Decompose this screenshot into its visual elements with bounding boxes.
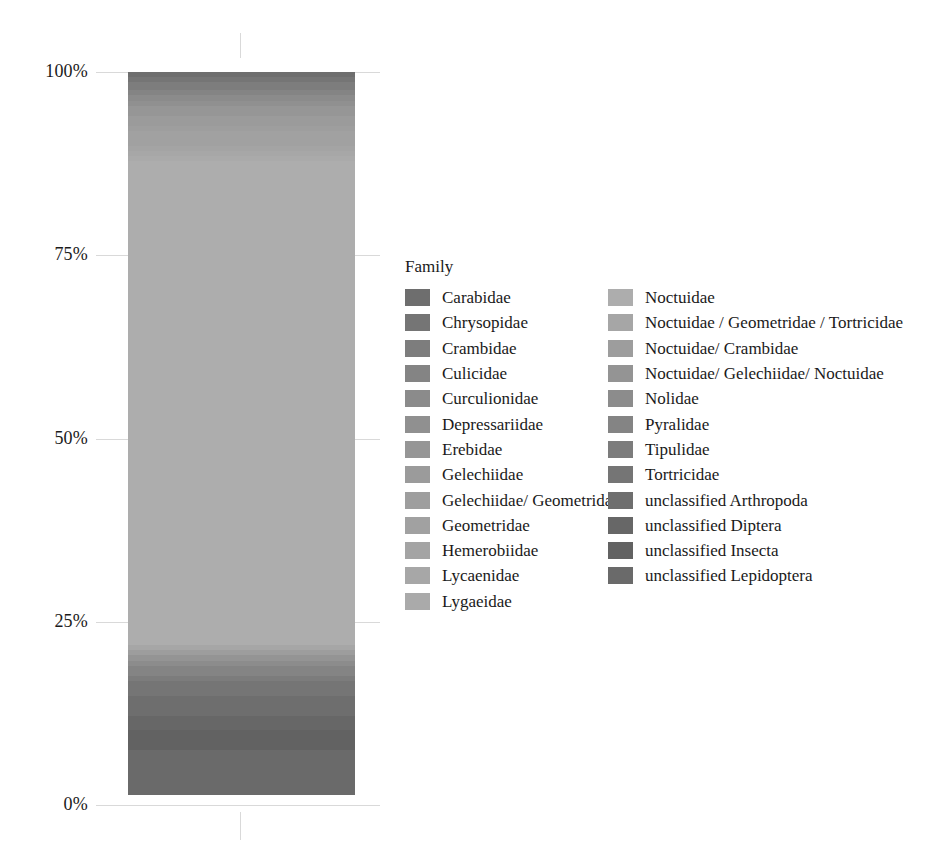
legend-item[interactable]: unclassified Arthropoda — [608, 487, 928, 512]
legend-column-2: NoctuidaeNoctuidae / Geometridae / Tortr… — [608, 285, 928, 589]
bar-segment — [128, 131, 355, 146]
bar-segment — [128, 750, 355, 795]
legend-swatch-icon — [608, 340, 633, 357]
legend-item[interactable]: unclassified Lepidoptera — [608, 563, 928, 588]
legend-item[interactable]: Depressariidae — [405, 411, 608, 436]
legend-swatch-icon — [405, 466, 430, 483]
x-axis-tick-top — [240, 33, 241, 58]
y-axis-tick-75: 75% — [20, 244, 88, 265]
legend-item[interactable]: Culicidae — [405, 361, 608, 386]
legend-item[interactable]: Tortricidae — [608, 462, 928, 487]
bar-segment — [128, 161, 355, 645]
legend-item[interactable]: Noctuidae / Geometridae / Tortricidae — [608, 310, 928, 335]
legend-item-label: Gelechiidae — [442, 466, 523, 483]
legend-item-label: Crambidae — [442, 340, 517, 357]
bar-segment — [128, 716, 355, 731]
legend-swatch-icon — [405, 314, 430, 331]
legend: Family CarabidaeChrysopidaeCrambidaeCuli… — [405, 258, 928, 614]
bar-segment — [128, 666, 355, 677]
legend-item[interactable]: Lycaenidae — [405, 563, 608, 588]
legend-swatch-icon — [405, 492, 430, 509]
legend-swatch-icon — [405, 441, 430, 458]
legend-item-label: Tortricidae — [645, 466, 719, 483]
bar-segment — [128, 730, 355, 750]
legend-item-label: Geometridae — [442, 517, 530, 534]
legend-item[interactable]: Pyralidae — [608, 411, 928, 436]
legend-swatch-icon — [405, 567, 430, 584]
legend-item[interactable]: Tipulidae — [608, 437, 928, 462]
legend-item-label: Curculionidae — [442, 390, 538, 407]
legend-swatch-icon — [405, 289, 430, 306]
legend-item-label: unclassified Arthropoda — [645, 492, 808, 509]
legend-swatch-icon — [405, 340, 430, 357]
legend-swatch-icon — [405, 542, 430, 559]
x-axis-tick-bottom — [240, 812, 241, 840]
y-axis-tick-25: 25% — [20, 611, 88, 632]
bar-segment — [128, 696, 355, 716]
legend-item[interactable]: Curculionidae — [405, 386, 608, 411]
legend-item[interactable]: Gelechiidae/ Geometridae — [405, 487, 608, 512]
legend-swatch-icon — [608, 517, 633, 534]
legend-swatch-icon — [608, 466, 633, 483]
legend-item-label: Noctuidae/ Gelechiidae/ Noctuidae — [645, 365, 884, 382]
legend-item[interactable]: Noctuidae/ Gelechiidae/ Noctuidae — [608, 361, 928, 386]
legend-swatch-icon — [405, 390, 430, 407]
legend-item-label: Tipulidae — [645, 441, 710, 458]
legend-item[interactable]: unclassified Diptera — [608, 513, 928, 538]
legend-swatch-icon — [608, 365, 633, 382]
legend-item[interactable]: unclassified Insecta — [608, 538, 928, 563]
legend-swatch-icon — [608, 314, 633, 331]
legend-item[interactable]: Carabidae — [405, 285, 608, 310]
y-axis-tick-100: 100% — [20, 61, 88, 82]
legend-item-label: Lycaenidae — [442, 567, 519, 584]
legend-item-label: Gelechiidae/ Geometridae — [442, 492, 620, 509]
legend-swatch-icon — [608, 492, 633, 509]
legend-item[interactable]: Chrysopidae — [405, 310, 608, 335]
gridline — [96, 805, 380, 806]
y-axis-tick-0: 0% — [20, 794, 88, 815]
legend-swatch-icon — [608, 289, 633, 306]
legend-item-label: Noctuidae/ Crambidae — [645, 340, 798, 357]
legend-item-label: Erebidae — [442, 441, 502, 458]
legend-item-label: Culicidae — [442, 365, 507, 382]
legend-item[interactable]: Noctuidae/ Crambidae — [608, 336, 928, 361]
legend-item[interactable]: Geometridae — [405, 513, 608, 538]
legend-swatch-icon — [405, 593, 430, 610]
stacked-bar — [128, 72, 355, 805]
legend-swatch-icon — [608, 441, 633, 458]
legend-item[interactable]: Crambidae — [405, 336, 608, 361]
legend-item-label: Nolidae — [645, 390, 699, 407]
legend-swatch-icon — [405, 416, 430, 433]
legend-item[interactable]: Nolidae — [608, 386, 928, 411]
legend-item-label: Hemerobiidae — [442, 542, 538, 559]
legend-swatch-icon — [405, 517, 430, 534]
legend-item[interactable]: Hemerobiidae — [405, 538, 608, 563]
legend-item[interactable]: Gelechiidae — [405, 462, 608, 487]
legend-item-label: Noctuidae — [645, 289, 715, 306]
legend-item-label: Depressariidae — [442, 416, 543, 433]
legend-swatch-icon — [405, 365, 430, 382]
legend-swatch-icon — [608, 390, 633, 407]
bar-segment — [128, 106, 355, 117]
legend-item-label: Pyralidae — [645, 416, 709, 433]
legend-item-label: unclassified Diptera — [645, 517, 781, 534]
legend-item-label: Noctuidae / Geometridae / Tortricidae — [645, 314, 903, 331]
legend-item[interactable]: Noctuidae — [608, 285, 928, 310]
legend-swatch-icon — [608, 567, 633, 584]
y-axis-tick-50: 50% — [20, 428, 88, 449]
legend-item[interactable]: Lygaeidae — [405, 589, 608, 614]
legend-column-1: CarabidaeChrysopidaeCrambidaeCulicidaeCu… — [405, 285, 608, 614]
legend-swatch-icon — [608, 416, 633, 433]
legend-item-label: unclassified Insecta — [645, 542, 779, 559]
stacked-bar-chart: 100%75%50%25%0% Family CarabidaeChrysopi… — [0, 0, 929, 862]
legend-item[interactable]: Erebidae — [405, 437, 608, 462]
legend-item-label: Chrysopidae — [442, 314, 528, 331]
legend-item-label: Lygaeidae — [442, 593, 512, 610]
bar-segment — [128, 681, 355, 696]
bar-segment — [128, 116, 355, 127]
legend-title: Family — [405, 258, 928, 275]
legend-item-label: Carabidae — [442, 289, 511, 306]
legend-item-label: unclassified Lepidoptera — [645, 567, 813, 584]
legend-swatch-icon — [608, 542, 633, 559]
